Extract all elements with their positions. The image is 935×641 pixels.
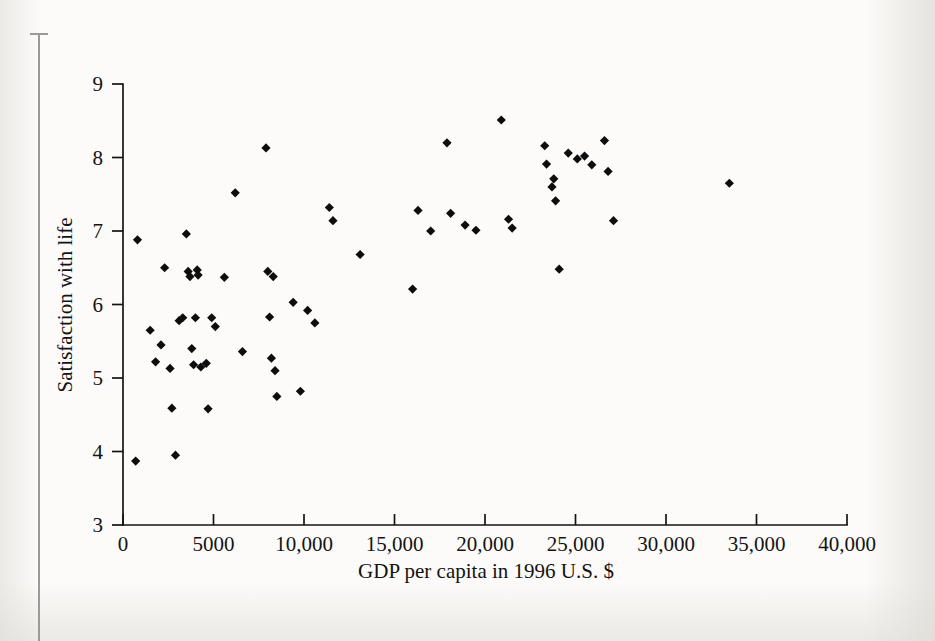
x-tick-label-30000: 30,000 — [637, 532, 695, 556]
y-tick-label-9: 9 — [93, 72, 104, 96]
data-point — [238, 347, 247, 356]
data-point — [555, 265, 564, 274]
data-point — [131, 456, 140, 465]
data-point — [508, 223, 517, 232]
data-point — [182, 229, 191, 238]
data-point — [587, 160, 596, 169]
y-tick-label-7: 7 — [93, 219, 104, 243]
y-tick-label-5: 5 — [93, 366, 104, 390]
data-point-markers — [131, 115, 734, 465]
data-point — [220, 273, 229, 282]
data-point — [261, 143, 270, 152]
data-point — [564, 148, 573, 157]
data-point — [270, 366, 279, 375]
data-point — [267, 354, 276, 363]
data-point — [549, 174, 558, 183]
data-point — [325, 203, 334, 212]
y-axis-title: Satisfaction with life — [53, 218, 77, 393]
x-tick-label-20000: 20,000 — [456, 532, 514, 556]
data-point — [160, 263, 169, 272]
data-point — [296, 387, 305, 396]
x-axis-title: GDP per capita in 1996 U.S. $ — [358, 559, 614, 583]
data-point — [171, 451, 180, 460]
data-point — [413, 206, 422, 215]
data-point — [540, 141, 549, 150]
data-point — [551, 196, 560, 205]
data-point — [547, 182, 556, 191]
data-point — [187, 344, 196, 353]
data-point — [289, 298, 298, 307]
data-point — [446, 209, 455, 218]
x-axis-ticks — [123, 514, 847, 525]
y-tick-label-8: 8 — [93, 146, 104, 170]
x-tick-label-0: 0 — [118, 532, 129, 556]
data-point — [231, 188, 240, 197]
data-point — [191, 313, 200, 322]
data-point — [203, 404, 212, 413]
x-tick-label-15000: 15,000 — [366, 532, 424, 556]
x-axis-tick-labels: 0500010,00015,00020,00025,00030,00035,00… — [118, 532, 876, 556]
data-point — [146, 326, 155, 335]
data-point — [211, 322, 220, 331]
scatter-plot-svg: 3456789 0500010,00015,00020,00025,00030,… — [0, 0, 935, 641]
scanned-page-background: 3456789 0500010,00015,00020,00025,00030,… — [0, 0, 935, 641]
y-tick-label-6: 6 — [93, 293, 104, 317]
x-tick-label-5000: 5000 — [193, 532, 235, 556]
data-point — [133, 235, 142, 244]
y-axis-tick-labels: 3456789 — [93, 72, 104, 537]
data-point — [303, 306, 312, 315]
data-point — [189, 360, 198, 369]
data-point — [603, 167, 612, 176]
x-tick-label-10000: 10,000 — [275, 532, 333, 556]
data-point — [725, 179, 734, 188]
data-point — [542, 160, 551, 169]
y-tick-label-3: 3 — [93, 513, 104, 537]
data-point — [156, 340, 165, 349]
data-point — [167, 404, 176, 413]
x-tick-label-35000: 35,000 — [728, 532, 786, 556]
data-point — [600, 136, 609, 145]
x-tick-label-40000: 40,000 — [818, 532, 876, 556]
data-point — [471, 226, 480, 235]
scatter-plot-figure: 3456789 0500010,00015,00020,00025,00030,… — [0, 0, 935, 641]
data-point — [442, 138, 451, 147]
data-point — [356, 250, 365, 259]
data-point — [151, 357, 160, 366]
data-point — [408, 284, 417, 293]
data-point — [165, 364, 174, 373]
y-axis-ticks — [112, 84, 123, 525]
data-point — [328, 216, 337, 225]
data-point — [426, 226, 435, 235]
data-point — [207, 313, 216, 322]
y-tick-label-4: 4 — [93, 440, 104, 464]
data-point — [265, 312, 274, 321]
data-point — [460, 221, 469, 230]
data-point — [504, 215, 513, 224]
data-point — [609, 216, 618, 225]
data-point — [272, 392, 281, 401]
data-point — [310, 318, 319, 327]
x-tick-label-25000: 25,000 — [547, 532, 605, 556]
data-point — [497, 115, 506, 124]
